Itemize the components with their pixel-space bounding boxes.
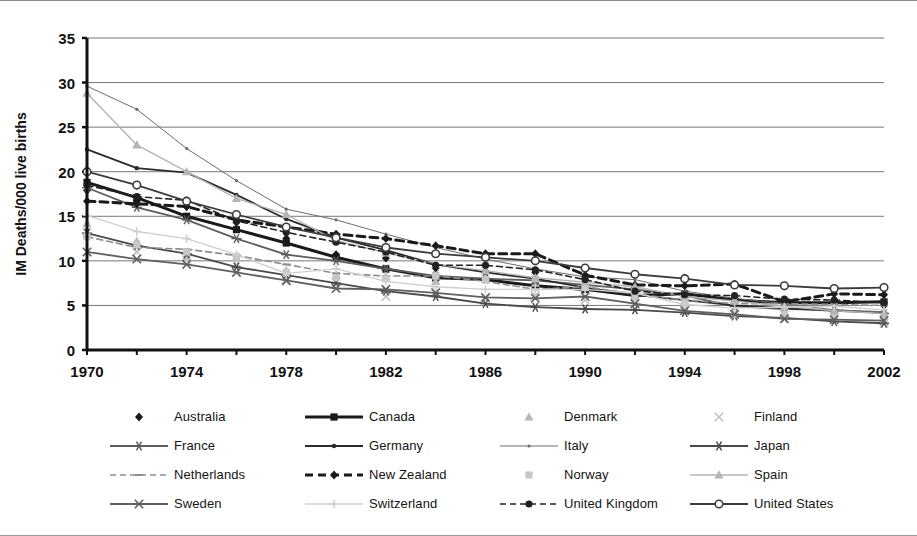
legend-item-denmark[interactable]: Denmark xyxy=(498,402,688,431)
legend-item-australia[interactable]: Australia xyxy=(108,402,303,431)
data-point-marker xyxy=(880,284,888,292)
data-point-marker xyxy=(880,299,887,306)
data-point-marker xyxy=(382,234,390,243)
data-point-marker xyxy=(524,412,533,420)
legend-item-netherlands[interactable]: Netherlands xyxy=(108,460,303,489)
chart-figure: 05101520253035 1970197419781982198619901… xyxy=(0,0,917,536)
data-point-marker xyxy=(525,471,532,478)
data-point-marker xyxy=(135,166,139,170)
data-point-marker xyxy=(382,244,390,252)
data-point-marker xyxy=(532,257,540,265)
legend-item-switzerland[interactable]: Switzerland xyxy=(303,489,498,518)
data-point-marker xyxy=(482,253,490,261)
data-point-marker xyxy=(283,239,290,246)
x-tick-label: 1986 xyxy=(469,363,502,380)
data-point-marker xyxy=(330,413,337,420)
x-tick-label: 1994 xyxy=(668,363,702,380)
legend-item-new-zealand[interactable]: New Zealand xyxy=(303,460,498,489)
y-tick-label: 20 xyxy=(58,164,75,181)
x-tick-label: 2002 xyxy=(867,363,900,380)
data-point-marker xyxy=(182,167,191,175)
data-point-marker xyxy=(714,441,724,450)
data-point-marker xyxy=(631,270,639,278)
data-point-marker xyxy=(432,241,440,250)
legend-item-japan[interactable]: Japan xyxy=(688,431,878,460)
legend-symbol-circle-open-icon xyxy=(688,494,750,514)
data-point-marker xyxy=(432,272,439,279)
data-point-marker xyxy=(135,108,138,111)
legend-item-norway[interactable]: Norway xyxy=(498,460,688,489)
y-tick-label: 5 xyxy=(67,297,75,314)
legend-label: Japan xyxy=(750,438,790,453)
legend-item-italy[interactable]: Italy xyxy=(498,431,688,460)
data-point-marker xyxy=(581,264,589,272)
legend-item-spain[interactable]: Spain xyxy=(688,460,878,489)
legend-item-sweden[interactable]: Sweden xyxy=(108,489,303,518)
data-point-marker xyxy=(233,226,240,233)
legend-label: Switzerland xyxy=(365,496,437,511)
chart-legend: AustraliaCanadaDenmarkFinlandFranceGerma… xyxy=(108,402,878,522)
legend-item-germany[interactable]: Germany xyxy=(303,431,498,460)
legend-label: Australia xyxy=(170,409,225,424)
x-tick-label: 1982 xyxy=(369,363,402,380)
legend-label: Canada xyxy=(365,409,415,424)
data-point-marker xyxy=(582,276,589,283)
legend-label: France xyxy=(170,438,215,453)
data-point-marker xyxy=(580,305,590,314)
legend-symbol-star-icon xyxy=(108,436,170,456)
legend-item-united-kingdom[interactable]: United Kingdom xyxy=(498,489,688,518)
data-point-marker xyxy=(185,147,188,150)
legend-row: AustraliaCanadaDenmarkFinland xyxy=(108,402,878,431)
data-point-marker xyxy=(731,281,739,289)
data-point-marker xyxy=(282,223,290,231)
y-tick-label: 10 xyxy=(58,253,75,270)
data-point-marker xyxy=(781,282,789,290)
data-point-marker xyxy=(281,250,291,259)
legend-row: FranceGermanyItalyJapan xyxy=(108,431,878,460)
y-tick-label: 0 xyxy=(67,342,75,359)
data-point-marker xyxy=(481,285,489,293)
data-point-marker xyxy=(133,181,141,189)
data-point-marker xyxy=(482,262,489,269)
legend-label: Denmark xyxy=(560,409,617,424)
legend-symbol-dot-icon xyxy=(303,436,365,456)
data-point-marker xyxy=(231,234,241,243)
legend-label: Sweden xyxy=(170,496,222,511)
data-point-marker xyxy=(332,443,336,447)
legend-symbol-square-icon xyxy=(303,407,365,427)
legend-symbol-triangle-icon xyxy=(498,407,560,427)
series-norway xyxy=(83,233,887,322)
legend-item-united-states[interactable]: United States xyxy=(688,489,878,518)
x-tick-label: 1978 xyxy=(270,363,303,380)
x-tick-label: 1970 xyxy=(70,363,103,380)
legend-item-france[interactable]: France xyxy=(108,431,303,460)
data-point-marker xyxy=(135,412,143,421)
data-point-marker xyxy=(432,250,440,258)
legend-item-canada[interactable]: Canada xyxy=(303,402,498,431)
series-layer xyxy=(82,85,889,328)
data-point-marker xyxy=(681,275,689,283)
legend-label: Finland xyxy=(750,409,797,424)
y-tick-label: 15 xyxy=(58,208,75,225)
legend-label: United Kingdom xyxy=(560,496,658,511)
data-point-marker xyxy=(525,500,532,507)
data-point-marker xyxy=(133,193,140,200)
data-point-marker xyxy=(381,287,391,296)
data-point-marker xyxy=(183,248,190,255)
y-tick-label: 30 xyxy=(58,75,75,92)
legend-symbol-dash-icon xyxy=(108,465,170,485)
data-point-marker xyxy=(334,218,337,221)
legend-item-finland[interactable]: Finland xyxy=(688,402,878,431)
legend-label: New Zealand xyxy=(365,467,447,482)
data-point-marker xyxy=(233,211,241,219)
legend-symbol-dot-small-icon xyxy=(498,436,560,456)
data-point-marker xyxy=(232,194,241,202)
data-point-marker xyxy=(133,227,141,235)
data-point-marker xyxy=(715,500,723,508)
legend-symbol-square-icon xyxy=(498,465,560,485)
data-point-marker xyxy=(133,241,140,248)
legend-symbol-asterisk-icon xyxy=(688,436,750,456)
data-point-marker xyxy=(332,234,340,242)
legend-symbol-diamond-icon xyxy=(108,407,170,427)
data-point-marker xyxy=(235,179,238,182)
